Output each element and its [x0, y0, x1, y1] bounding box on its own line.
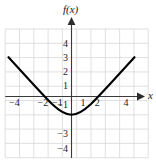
y-tick-label-2: 2 — [54, 67, 68, 77]
y-tick-label-minus-4: −4 — [51, 144, 68, 154]
x-axis-label: x — [148, 90, 153, 101]
graph-figure: f(x) x 4 3 2 1 −1 −3 −4 −4 −2 −1 1 2 4 — [0, 0, 156, 164]
coordinate-plane — [0, 0, 156, 164]
grid-lines — [5, 29, 148, 158]
x-tick-label-4: 4 — [123, 98, 128, 108]
y-tick-label-minus-3: −3 — [51, 129, 68, 139]
y-tick-label-1: 1 — [54, 81, 68, 91]
x-tick-label-2: 2 — [95, 98, 100, 108]
y-axis-label: f(x) — [63, 4, 78, 15]
y-tick-label-4: 4 — [54, 39, 68, 49]
x-tick-label-minus-1: −1 — [52, 98, 63, 108]
x-tick-label-1: 1 — [81, 98, 86, 108]
x-tick-label-minus-4: −4 — [9, 98, 20, 108]
y-tick-label-3: 3 — [54, 53, 68, 63]
x-tick-label-minus-2: −2 — [38, 98, 49, 108]
y-axis — [68, 17, 76, 158]
